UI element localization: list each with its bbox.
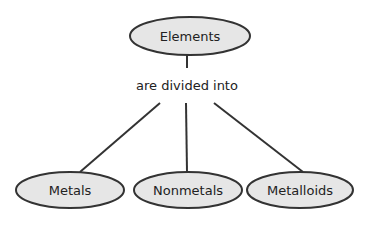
node-nonmetals: Nonmetals [153,183,223,198]
node-metalloids: Metalloids [267,183,333,198]
link-label: are divided into [136,78,238,93]
concept-map: Elements are divided into Metals Nonmeta… [0,0,373,227]
node-metals: Metals [49,183,92,198]
node-elements: Elements [160,29,221,44]
